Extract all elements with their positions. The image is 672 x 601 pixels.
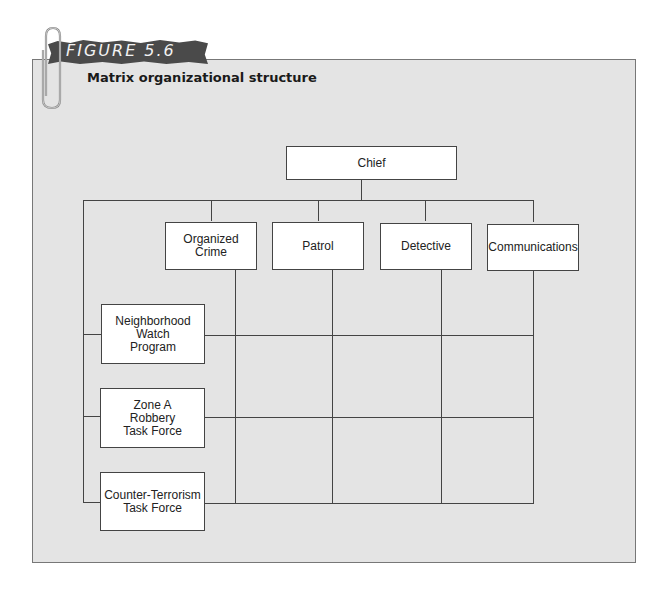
grid-row-3 [204,503,534,504]
project-label: Counter-Terrorism Task Force [103,489,203,515]
figure-title: Matrix organizational structure [87,70,317,85]
department-box-detective: Detective [380,223,472,270]
grid-row-3-stub [83,502,101,503]
dept-drop-3 [425,200,426,221]
department-box-patrol: Patrol [272,222,364,270]
department-bus [83,200,534,201]
grid-col-1 [235,269,236,503]
project-spine [83,200,84,503]
department-box-communications: Communications [487,224,579,271]
chief-connector [361,179,362,201]
department-label: Organized Crime [176,233,246,259]
project-label: Zone A Robbery Task Force [121,399,185,438]
grid-col-2 [332,269,333,503]
grid-col-3 [441,269,442,503]
chief-box: Chief [286,146,457,180]
department-label: Patrol [302,240,333,253]
project-box-zone-a-robbery: Zone A Robbery Task Force [100,388,205,448]
grid-col-4 [533,270,534,503]
dept-drop-1 [211,200,212,221]
paperclip-icon [38,26,68,110]
grid-row-1-stub [83,334,101,335]
project-label: Neighborhood Watch Program [113,315,193,354]
grid-row-2-stub [83,416,101,417]
project-box-neighborhood-watch: Neighborhood Watch Program [101,304,205,364]
department-label: Detective [401,240,451,253]
dept-drop-2 [318,200,319,221]
grid-row-2 [204,417,534,418]
chief-label: Chief [357,157,385,170]
department-box-organized-crime: Organized Crime [165,222,257,270]
grid-row-1 [204,335,534,336]
department-label: Communications [488,241,577,254]
project-box-counter-terrorism: Counter-Terrorism Task Force [100,472,205,531]
figure-label: FIGURE 5.6 [66,41,176,60]
dept-drop-4 [533,200,534,222]
